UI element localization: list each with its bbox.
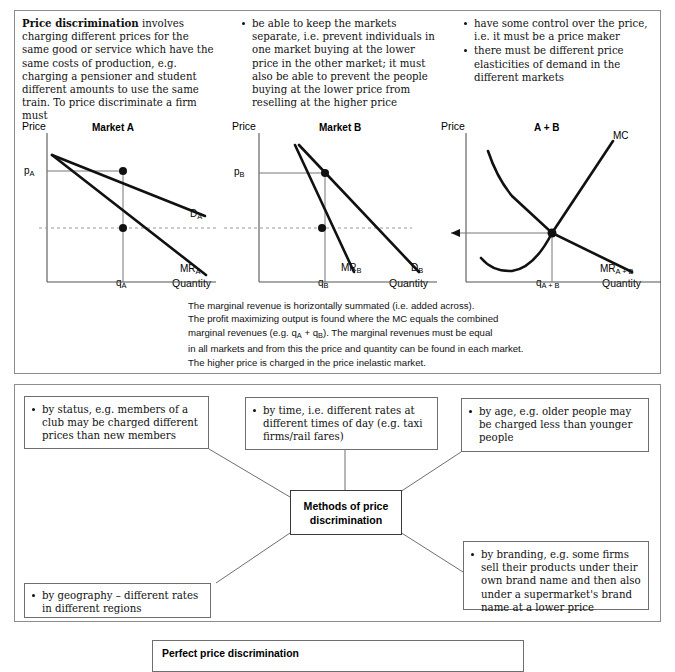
list-item: have some control over the price, i.e. i… — [462, 17, 652, 43]
market-a-title: Market A — [92, 122, 134, 133]
market-b-x-axis-label: Quantity — [389, 277, 428, 289]
list-item: by age, e.g. older people may be charged… — [467, 405, 641, 445]
market-b-quantity-sub: B — [324, 281, 329, 290]
method-branding-text: by branding, e.g. some firms sell their … — [481, 549, 641, 613]
market-a-quantity-annotation: qA — [116, 277, 127, 290]
method-branding-list: by branding, e.g. some firms sell their … — [464, 542, 648, 614]
criteria-mid-text: be able to keep the markets separate, i.… — [252, 18, 435, 108]
market-a-price-sub: A — [30, 169, 35, 178]
market-b-demand-sub: B — [418, 266, 423, 275]
summary-text: The marginal revenue is horizontally sum… — [188, 299, 608, 369]
list-item: by geography – different rates in differ… — [30, 589, 203, 615]
market-ab-x-axis-label: Quantity — [602, 277, 641, 289]
method-geography-list: by geography – different rates in differ… — [25, 584, 210, 615]
method-time-text: by time, i.e. different rates at differe… — [263, 405, 423, 442]
perfect-price-discrimination-box: Perfect price discrimination — [152, 640, 524, 672]
intro-paragraph: Price discrimination involves charging d… — [22, 17, 218, 123]
method-status-list: by status, e.g. members of a club may be… — [25, 397, 208, 443]
summary-line-3: marginal revenues (e.g. qA + qB). The ma… — [188, 326, 608, 342]
summary-line-3-pre: marginal revenues (e.g. q — [188, 327, 297, 338]
list-item: there must be different price elasticiti… — [462, 44, 652, 84]
market-a-quantity-sub: A — [122, 281, 127, 290]
market-ab-y-axis-label: Price — [441, 120, 465, 132]
market-b-demand-curve-label: DB — [411, 262, 423, 275]
market-a-price-annotation: pA — [24, 165, 35, 178]
method-geography-text: by geography – different rates in differ… — [42, 590, 198, 614]
market-b-mr-curve-label: MRB — [341, 262, 362, 275]
market-b-price-annotation: pB — [234, 166, 245, 179]
criteria-right-text-1: have some control over the price, i.e. i… — [474, 18, 648, 42]
method-status-text: by status, e.g. members of a club may be… — [42, 404, 198, 441]
market-a-x-axis-label: Quantity — [172, 277, 211, 289]
intro-lead: Price discrimination — [22, 17, 139, 29]
market-b-y-axis-label: Price — [232, 120, 256, 132]
method-age-list: by age, e.g. older people may be charged… — [462, 399, 648, 445]
method-box-age: by age, e.g. older people may be charged… — [461, 398, 649, 452]
market-ab-title: A + B — [534, 122, 559, 133]
method-age-text: by age, e.g. older people may be charged… — [479, 406, 632, 443]
method-box-branding: by branding, e.g. some firms sell their … — [463, 541, 649, 610]
market-a-mr-curve-label: MRA — [180, 263, 201, 276]
list-item: by branding, e.g. some firms sell their … — [469, 548, 641, 614]
market-ab-mr-sub: A + B — [616, 267, 634, 276]
criteria-right-list: have some control over the price, i.e. i… — [462, 17, 652, 84]
criteria-mid-list: be able to keep the markets separate, i.… — [240, 17, 436, 109]
method-box-status: by status, e.g. members of a club may be… — [24, 396, 209, 449]
market-b-title: Market B — [319, 122, 361, 133]
methods-center-title-line2: discrimination — [304, 513, 389, 527]
market-a-mr-sub: A — [196, 267, 201, 276]
summary-line-3-mid: + q — [302, 327, 318, 338]
market-b-quantity-annotation: qB — [318, 277, 329, 290]
market-b-mr-sub: B — [357, 266, 362, 275]
method-box-time: by time, i.e. different rates at differe… — [245, 397, 438, 450]
market-a-y-axis-label: Price — [22, 120, 46, 132]
summary-line-2: The profit maximizing output is found wh… — [188, 312, 608, 325]
intro-body: involves charging different prices for t… — [22, 18, 214, 121]
market-a-demand-curve-label: DA — [190, 208, 202, 221]
methods-center-title-line1: Methods of price — [304, 499, 389, 513]
market-a-demand-sub: A — [197, 212, 202, 221]
summary-line-1: The marginal revenue is horizontally sum… — [188, 299, 608, 312]
market-ab-mc-curve-label: MC — [613, 130, 629, 141]
summary-line-3-post: ). The marginal revenues must be equal — [323, 327, 492, 338]
market-ab-mr-curve-label: MRA + B — [600, 263, 633, 276]
method-box-geography: by geography – different rates in differ… — [24, 583, 211, 618]
list-item: by time, i.e. different rates at differe… — [251, 404, 430, 444]
market-ab-quantity-annotation: qA + B — [536, 277, 559, 290]
summary-line-4: in all markets and from this the price a… — [188, 342, 608, 355]
market-ab-quantity-sub: A + B — [542, 281, 560, 290]
market-b-price-sub: B — [240, 170, 245, 179]
methods-center-box: Methods of price discrimination — [290, 490, 402, 535]
method-time-list: by time, i.e. different rates at differe… — [246, 398, 437, 444]
perfect-price-discrimination-title: Perfect price discrimination — [162, 648, 299, 659]
list-item: by status, e.g. members of a club may be… — [30, 403, 201, 443]
summary-line-5: The higher price is charged in the price… — [188, 356, 608, 369]
criteria-right-text-2: there must be different price elasticiti… — [474, 45, 624, 82]
list-item: be able to keep the markets separate, i.… — [240, 17, 436, 109]
